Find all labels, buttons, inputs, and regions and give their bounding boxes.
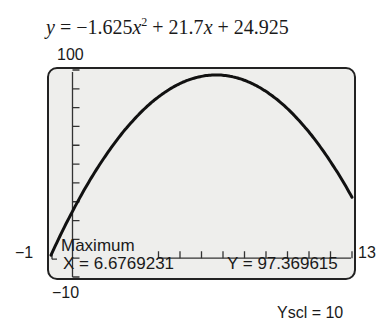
ymax-label: 100 <box>57 46 84 64</box>
eq-part: = −1.625 <box>55 16 133 38</box>
eq-y: y <box>46 16 55 38</box>
y-readout: Y = 97.369615 <box>227 254 338 274</box>
eq-part: + 21.7 <box>147 16 203 38</box>
xmin-label: −1 <box>15 244 33 262</box>
eq-x: x <box>204 16 213 38</box>
maximum-label: Maximum <box>61 236 135 256</box>
xmax-label: 13 <box>358 244 376 262</box>
equation-title: y = −1.625x2 + 21.7x + 24.925 <box>46 16 289 39</box>
x-readout: X = 6.6769231 <box>63 254 174 274</box>
parabola-curve <box>51 75 352 255</box>
eq-x: x <box>132 16 141 38</box>
calculator-screen: Maximum X = 6.6769231 Y = 97.369615 <box>47 67 356 280</box>
eq-part: + 24.925 <box>213 16 289 38</box>
yscl-label: Yscl = 10 <box>277 304 343 322</box>
ymin-label: −10 <box>52 284 79 302</box>
